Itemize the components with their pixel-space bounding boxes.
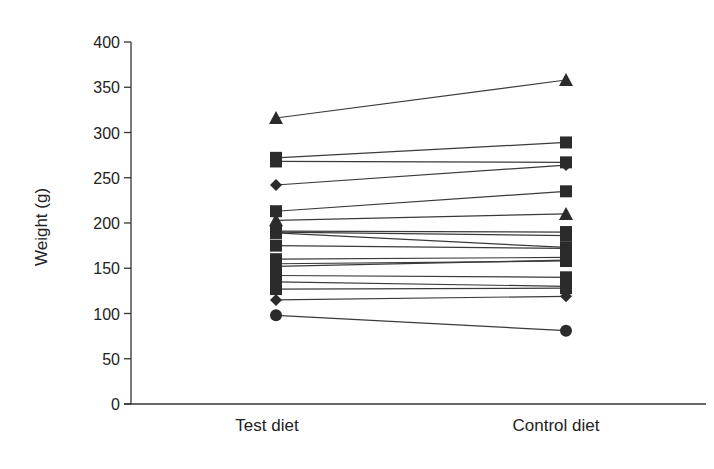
paired-line xyxy=(276,282,566,287)
y-tick-label: 0 xyxy=(111,396,120,413)
diamond-marker-icon xyxy=(270,179,282,191)
circle-marker-icon xyxy=(270,309,282,321)
paired-line xyxy=(276,165,566,185)
paired-line xyxy=(276,315,566,330)
paired-line xyxy=(276,257,566,259)
paired-line xyxy=(276,80,566,118)
square-marker-icon xyxy=(270,155,282,167)
square-marker-icon xyxy=(270,240,282,252)
y-tick-label: 250 xyxy=(93,170,120,187)
square-marker-icon xyxy=(560,254,572,266)
y-tick-label: 400 xyxy=(93,34,120,51)
y-tick-label: 100 xyxy=(93,306,120,323)
circle-marker-icon xyxy=(560,325,572,337)
y-tick-label: 350 xyxy=(93,79,120,96)
paired-line xyxy=(276,288,566,289)
paired-weight-chart: 050100150200250300350400 Weight (g) Test… xyxy=(0,0,714,469)
y-tick-label: 300 xyxy=(93,125,120,142)
paired-lines xyxy=(276,80,566,331)
paired-line xyxy=(276,214,566,220)
square-marker-icon xyxy=(270,283,282,295)
paired-line xyxy=(276,191,566,211)
paired-line xyxy=(276,275,566,277)
square-marker-icon xyxy=(560,136,572,148)
diamond-marker-icon xyxy=(270,294,282,306)
square-marker-icon xyxy=(270,227,282,239)
paired-line xyxy=(276,142,566,157)
y-tick-label: 150 xyxy=(93,260,120,277)
paired-line xyxy=(276,246,566,249)
paired-line xyxy=(276,161,566,162)
y-axis: 050100150200250300350400 xyxy=(93,34,131,413)
square-marker-icon xyxy=(560,230,572,242)
x-label-control-diet: Control diet xyxy=(513,416,600,435)
triangle-marker-icon xyxy=(559,207,573,220)
paired-line xyxy=(276,296,566,300)
paired-line xyxy=(276,231,566,232)
y-axis-title: Weight (g) xyxy=(32,188,51,266)
y-tick-label: 50 xyxy=(102,351,120,368)
triangle-marker-icon xyxy=(559,73,573,86)
x-label-test-diet: Test diet xyxy=(235,416,299,435)
square-marker-icon xyxy=(560,185,572,197)
y-tick-label: 200 xyxy=(93,215,120,232)
